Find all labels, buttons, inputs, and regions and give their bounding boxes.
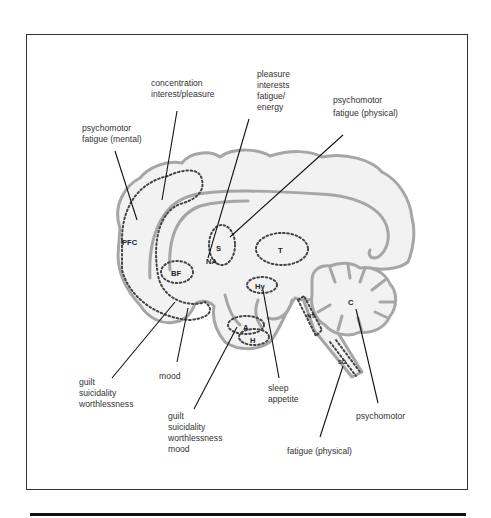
brain-diagram: PFC S NA T BF Hy A H C NT SC concentrati… [0, 0, 491, 518]
annotation-psychomotor-c: psychomotor [356, 411, 405, 421]
annotation-psychomotor-physical: psychomotor fatigue (physical) [333, 95, 398, 118]
region-label-sc: SC [338, 359, 347, 365]
annotation-mood: mood [159, 371, 181, 381]
region-label-c: C [348, 298, 354, 307]
region-label-pfc: PFC [122, 238, 138, 247]
cerebellum-shape [312, 263, 396, 335]
region-label-na: NA [206, 257, 217, 266]
annotation-sleep: sleep appetite [268, 383, 299, 404]
region-label-h: H [250, 336, 255, 345]
region-label-bf: BF [171, 269, 181, 278]
region-label-t: T [278, 246, 283, 255]
bottom-rule [30, 513, 466, 516]
region-label-a: A [243, 323, 249, 332]
region-label-hy: Hy [255, 282, 265, 291]
annotation-pleasure: pleasure interests fatigue/ energy [257, 69, 292, 112]
annotation-guilt-left: guilt suicidality worthlessness [78, 377, 133, 409]
annotation-concentration: concentration interest/pleasure [151, 78, 215, 99]
region-label-nt: NT [307, 313, 315, 319]
annotation-guilt-center: guilt suicidality worthlessness mood [167, 411, 225, 454]
region-label-s: S [216, 244, 221, 253]
annotation-fatigue-physical: fatigue (physical) [287, 446, 352, 456]
annotation-psychomotor-mental: psychomotor fatigue (mental) [82, 123, 142, 144]
